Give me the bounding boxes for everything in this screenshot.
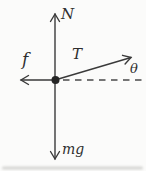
origin-point xyxy=(52,76,60,84)
free-body-diagram: N T f θ mg xyxy=(0,0,146,171)
friction-label: f xyxy=(20,49,31,69)
diagram-canvas: N T f θ mg xyxy=(0,0,146,171)
angle-theta-label: θ xyxy=(130,61,138,76)
weight-label: mg xyxy=(62,141,84,157)
tension-force-arrow xyxy=(55,58,131,81)
normal-force-label: N xyxy=(60,5,75,23)
bottom-scan-artifact xyxy=(2,167,143,170)
tension-label: T xyxy=(72,45,83,63)
